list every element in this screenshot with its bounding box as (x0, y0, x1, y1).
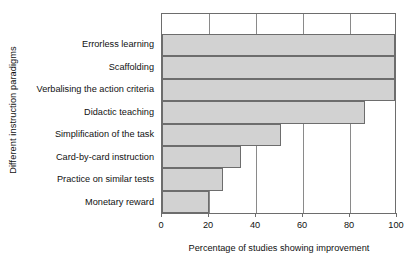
bar-row (162, 101, 395, 123)
category-label-practice-on-similar-tests: Practice on similar tests (26, 168, 159, 191)
x-tick-label-80: 80 (344, 220, 354, 230)
x-tick-0 (161, 213, 162, 217)
category-label-didactic-teaching: Didactic teaching (26, 101, 159, 124)
x-tick-label-20: 20 (203, 220, 213, 230)
bar-row (162, 124, 395, 146)
y-axis-title-text: Different instruction paradigms (8, 46, 18, 174)
bar-row (162, 56, 395, 78)
bar-monetary-reward (162, 191, 209, 213)
x-tick-100 (396, 213, 397, 217)
bar-row (162, 168, 395, 190)
plot-area (161, 13, 396, 213)
category-label-card-by-card-instruction: Card-by-card instruction (26, 146, 159, 169)
category-label-errorless-learning: Errorless learning (26, 33, 159, 56)
bar-chart: Different instruction paradigms Errorles… (0, 0, 417, 270)
x-tick-label-0: 0 (158, 220, 163, 230)
category-label-scaffolding: Scaffolding (26, 56, 159, 79)
y-axis-title: Different instruction paradigms (0, 0, 26, 220)
bar-row (162, 34, 395, 56)
category-label-monetary-reward: Monetary reward (26, 191, 159, 214)
x-axis-line (161, 213, 397, 214)
x-tick-40 (255, 213, 256, 217)
bar-simplification-of-the-task (162, 124, 281, 146)
bar-row (162, 79, 395, 101)
x-tick-label-100: 100 (388, 220, 403, 230)
x-tick-label-40: 40 (250, 220, 260, 230)
bar-practice-on-similar-tests (162, 168, 223, 190)
bar-series (162, 34, 395, 213)
x-axis-title: Percentage of studies showing improvemen… (161, 243, 397, 253)
bar-errorless-learning (162, 34, 395, 56)
x-tick-60 (302, 213, 303, 217)
category-label-simplification-of-the-task: Simplification of the task (26, 123, 159, 146)
bar-row (162, 191, 395, 213)
x-tick-80 (349, 213, 350, 217)
x-tick-20 (208, 213, 209, 217)
y-axis-category-labels: Errorless learning Scaffolding Verbalisi… (26, 33, 159, 213)
bar-verbalising-the-action-criteria (162, 79, 395, 101)
bar-didactic-teaching (162, 101, 365, 123)
bar-row (162, 146, 395, 168)
x-tick-label-60: 60 (297, 220, 307, 230)
category-label-verbalising-the-action-criteria: Verbalising the action criteria (26, 78, 159, 101)
bar-card-by-card-instruction (162, 146, 241, 168)
bar-scaffolding (162, 56, 395, 78)
